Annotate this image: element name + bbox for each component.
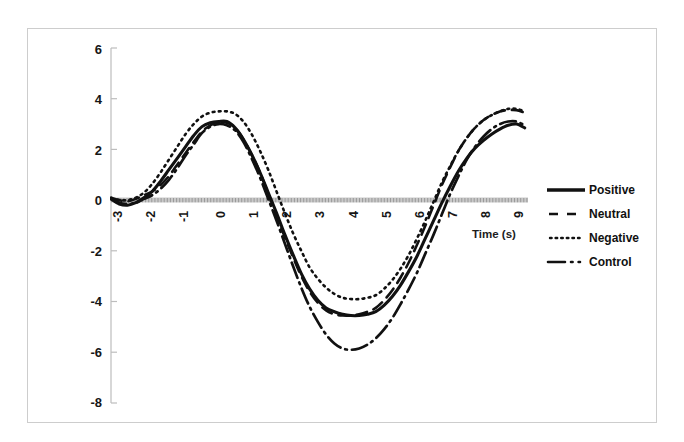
legend-item-positive[interactable]: Positive	[546, 178, 651, 202]
legend-label: Positive	[589, 183, 635, 197]
legend-label: Control	[589, 255, 632, 269]
legend-swatch-dashdot	[546, 256, 586, 268]
legend: Positive Neutral Negative Control	[546, 178, 651, 274]
legend-swatch-solid	[546, 184, 586, 196]
legend-swatch-dotted	[546, 232, 586, 244]
legend-label: Negative	[589, 231, 639, 245]
chart-figure: Change in heart rate (beats/mn) 6 4 2 0 …	[0, 0, 684, 442]
legend-item-control[interactable]: Control	[546, 250, 651, 274]
series-line-positive	[111, 121, 525, 316]
legend-swatch-dashed	[546, 208, 586, 220]
plot-area	[110, 42, 530, 410]
legend-label: Neutral	[589, 207, 630, 221]
legend-item-neutral[interactable]: Neutral	[546, 202, 651, 226]
y-axis-tickmarks	[111, 48, 117, 403]
legend-item-negative[interactable]: Negative	[546, 226, 651, 250]
series-line-neutral	[111, 110, 525, 316]
series-line-negative	[111, 109, 525, 300]
series-canvas	[110, 42, 530, 410]
